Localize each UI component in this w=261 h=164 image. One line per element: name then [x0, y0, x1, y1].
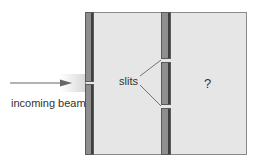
arrow-right-icon	[60, 80, 72, 87]
slits-label: slits	[119, 75, 138, 87]
slit-pointer-lower	[140, 85, 161, 106]
slit-pointer-upper	[140, 60, 161, 76]
unknown-pattern-label: ?	[204, 76, 211, 91]
incoming-beam-label: incoming beam	[11, 97, 86, 109]
